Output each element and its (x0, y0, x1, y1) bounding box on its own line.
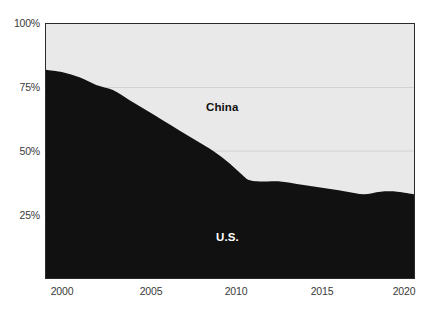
x-tick-label-2000: 2000 (51, 286, 74, 297)
x-tick-label-2010: 2010 (225, 286, 248, 297)
x-axis: 2000 2005 2010 2015 2020 (45, 286, 415, 306)
series-label-china: China (206, 102, 238, 114)
y-axis: 100% 75% 50% 25% (0, 0, 40, 319)
x-tick-label-2020: 2020 (393, 286, 416, 297)
x-tick-label-2015: 2015 (311, 286, 334, 297)
y-tick-label-50: 50% (0, 146, 40, 157)
x-tick-label-2005: 2005 (140, 286, 163, 297)
y-tick-label-25: 25% (0, 210, 40, 221)
y-tick-label-100: 100% (0, 18, 40, 29)
stacked-area-chart: 100% 75% 50% 25% China U.S. 2000 2005 20… (0, 0, 433, 319)
series-label-us: U.S. (216, 232, 239, 244)
y-tick-label-75: 75% (0, 82, 40, 93)
plot-area: China U.S. (45, 23, 415, 279)
